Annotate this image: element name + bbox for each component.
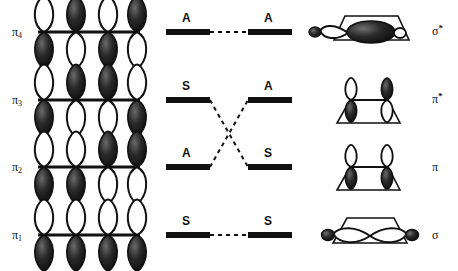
symmetry-label-left-3: S xyxy=(182,80,190,92)
orbital-label-sigma-star-asterisk: * xyxy=(438,23,443,33)
mo-label-pi2-subscript: 2 xyxy=(18,166,22,175)
row-4-right-orbital xyxy=(309,16,409,43)
symmetry-label-right-3: A xyxy=(264,80,273,92)
mo-label-pi3: π3 xyxy=(12,94,22,108)
orbital-correlation-diagram: π4 π3 π2 π1 A S A S A A S S σ* π* π σ xyxy=(0,0,458,271)
mo-label-pi2: π2 xyxy=(12,161,22,175)
mo-label-pi1-subscript: 1 xyxy=(18,234,22,243)
energy-level-right-2 xyxy=(248,164,292,170)
symmetry-label-right-4: A xyxy=(264,12,273,24)
energy-level-left-1 xyxy=(166,232,210,238)
orbital-label-sigma: σ xyxy=(432,228,438,241)
energy-level-left-2 xyxy=(166,164,210,170)
mo-label-pi4-subscript: 4 xyxy=(18,31,22,40)
energy-level-left-3 xyxy=(166,97,210,103)
energy-level-right-3 xyxy=(248,97,292,103)
symmetry-label-left-4: A xyxy=(182,12,191,24)
row-3-right-orbital xyxy=(337,78,400,123)
crossing-correlations xyxy=(210,100,248,167)
orbital-label-pi-star-asterisk: * xyxy=(438,91,443,101)
mo-label-pi3-subscript: 3 xyxy=(18,99,22,108)
orbital-label-pi-symbol: π xyxy=(432,160,438,174)
energy-level-right-1 xyxy=(248,232,292,238)
mo-label-pi1: π1 xyxy=(12,229,22,243)
orbital-label-sigma-star: σ* xyxy=(432,24,443,37)
energy-level-right-4 xyxy=(248,29,292,35)
row-3-levels xyxy=(166,97,292,103)
symmetry-label-left-2: A xyxy=(182,147,191,159)
row-4-left-orbital xyxy=(35,0,146,68)
orbital-label-sigma-symbol: σ xyxy=(432,228,438,242)
row-2-right-orbital xyxy=(337,145,400,190)
row-1-right-orbital xyxy=(322,218,419,243)
orbital-label-pi-star: π* xyxy=(432,92,443,105)
row-2-left-orbital xyxy=(35,131,146,202)
row-1-levels xyxy=(166,232,292,238)
symmetry-label-left-1: S xyxy=(182,215,190,227)
row-1-left-orbital xyxy=(35,199,146,270)
orbital-label-pi: π xyxy=(432,160,438,173)
symmetry-label-right-1: S xyxy=(264,215,272,227)
row-2-levels xyxy=(166,164,292,170)
symmetry-label-right-2: S xyxy=(264,147,272,159)
mo-label-pi4: π4 xyxy=(12,26,22,40)
energy-level-left-4 xyxy=(166,29,210,35)
diagram-canvas xyxy=(0,0,458,271)
row-4-levels xyxy=(166,29,292,35)
row-3-left-orbital xyxy=(35,64,146,135)
